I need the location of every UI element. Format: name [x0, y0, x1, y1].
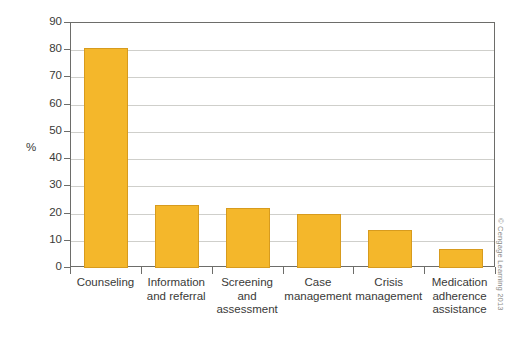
gridline: [71, 186, 494, 187]
bar: [439, 249, 483, 268]
bar: [84, 48, 128, 269]
y-axis-tick-label: 10: [22, 234, 62, 246]
y-axis-tick-label: 70: [22, 70, 62, 82]
bar-chart-figure: 0102030405060708090 % CounselingInformat…: [0, 0, 530, 337]
y-axis-tick: [64, 267, 70, 268]
y-axis-tick-label: 60: [22, 98, 62, 110]
y-axis-tick-label: 0: [22, 261, 62, 273]
x-axis-category-label: Screeningandassessment: [212, 276, 283, 317]
x-axis-tick: [70, 267, 71, 274]
y-axis-tick: [64, 22, 70, 23]
x-axis-tick: [424, 267, 425, 274]
x-axis-category-label: Casemanagement: [283, 276, 354, 303]
y-axis-tick: [64, 213, 70, 214]
x-axis-category-label: Medicationadherenceassistance: [424, 276, 495, 317]
y-axis-labels: 0102030405060708090: [8, 0, 62, 337]
gridline: [71, 241, 494, 242]
y-axis-tick-label: 20: [22, 207, 62, 219]
plot-area: [70, 22, 495, 267]
y-axis-tick-label: 80: [22, 43, 62, 55]
gridline: [71, 105, 494, 106]
x-axis-tick: [212, 267, 213, 274]
gridline: [71, 159, 494, 160]
gridline: [71, 132, 494, 133]
y-axis-tick: [64, 158, 70, 159]
y-axis-tick: [64, 240, 70, 241]
y-axis-tick: [64, 49, 70, 50]
bar: [155, 205, 199, 268]
y-axis-title: %: [26, 141, 36, 153]
copyright-notice: © Cengage Learning 2013: [496, 218, 505, 311]
x-axis-category-label: Crisismanagement: [353, 276, 424, 303]
gridline: [71, 214, 494, 215]
y-axis-tick-label: 50: [22, 125, 62, 137]
bar: [297, 214, 341, 268]
x-axis-category-label: Counseling: [70, 276, 141, 290]
bar: [368, 230, 412, 268]
x-axis-tick: [353, 267, 354, 274]
x-axis-tick: [283, 267, 284, 274]
y-axis-tick-label: 30: [22, 179, 62, 191]
gridline: [71, 77, 494, 78]
y-axis-tick: [64, 185, 70, 186]
y-axis-tick: [64, 76, 70, 77]
y-axis-tick-label: 40: [22, 152, 62, 164]
bar: [226, 208, 270, 268]
y-axis-tick: [64, 131, 70, 132]
y-axis-tick-label: 90: [22, 16, 62, 28]
gridline: [71, 50, 494, 51]
x-axis-category-label: Informationand referral: [141, 276, 212, 303]
y-axis-tick: [64, 104, 70, 105]
x-axis-tick: [141, 267, 142, 274]
